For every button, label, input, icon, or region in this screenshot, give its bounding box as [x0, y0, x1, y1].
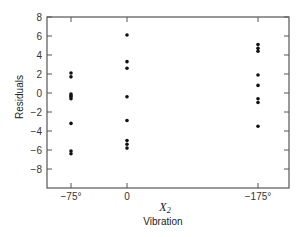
y-tick-label: 8 [36, 12, 42, 23]
data-point [69, 97, 73, 101]
y-tick-label: −4 [31, 126, 43, 137]
plot-border [47, 17, 289, 188]
y-tick-label: 6 [36, 31, 42, 42]
data-point [256, 124, 260, 128]
y-tick-label: 0 [36, 88, 42, 99]
data-point [256, 84, 260, 88]
x-axis-variable: X2 [158, 200, 170, 215]
data-point [256, 101, 260, 105]
y-axis-title: Residuals [14, 75, 25, 119]
data-points [69, 33, 260, 155]
data-point [125, 139, 129, 143]
data-point [256, 43, 260, 47]
y-tick-label: 4 [36, 50, 42, 61]
x-tick-label: −75° [61, 191, 82, 202]
data-point [256, 97, 260, 101]
y-tick-label: 2 [36, 69, 42, 80]
data-point [125, 33, 129, 37]
data-point [256, 73, 260, 77]
y-axis-ticks: 86420−2−4−6−8 [31, 12, 289, 175]
y-tick-label: −8 [31, 164, 43, 175]
data-point [69, 152, 73, 156]
data-point [125, 67, 129, 71]
data-point [69, 122, 73, 126]
data-point [256, 49, 260, 53]
residuals-scatter-plot: 86420−2−4−6−8 −75°0−175° Residuals X2 Vi… [0, 0, 305, 237]
plot-frame [47, 17, 289, 188]
data-point [125, 119, 129, 123]
data-point [125, 143, 129, 147]
data-point [125, 95, 129, 99]
x-axis-ticks: −75°0−175° [61, 17, 272, 202]
data-point [125, 60, 129, 64]
x-tick-label: −175° [245, 191, 272, 202]
x-axis-title: Vibration [143, 216, 182, 227]
data-point [69, 75, 73, 79]
y-tick-label: −6 [31, 145, 43, 156]
x-tick-label: 0 [124, 191, 130, 202]
data-point [125, 146, 129, 150]
data-point [69, 71, 73, 75]
y-tick-label: −2 [31, 107, 43, 118]
